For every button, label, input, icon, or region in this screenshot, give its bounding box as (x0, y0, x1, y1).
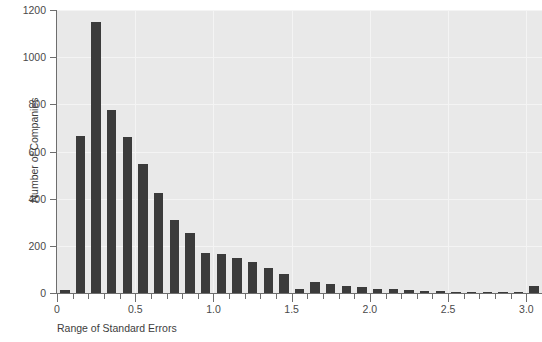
x-axis-minor-tick (323, 294, 324, 299)
x-axis-minor-tick (464, 294, 465, 299)
x-axis-minor-tick (432, 294, 433, 299)
bar (310, 282, 319, 293)
bar-series (57, 10, 542, 293)
bar (232, 258, 241, 293)
bar (170, 220, 179, 293)
plot-area (57, 10, 542, 293)
x-axis-minor-tick (198, 294, 199, 299)
bar (201, 253, 210, 293)
bar (107, 110, 116, 293)
x-axis-minor-tick (386, 294, 387, 299)
x-axis-minor-tick (354, 294, 355, 299)
y-axis-tick-label: 1200 (0, 4, 46, 16)
x-axis-minor-tick (417, 294, 418, 299)
bar (342, 286, 351, 293)
x-axis-minor-tick (167, 294, 168, 299)
y-axis-tick (50, 57, 57, 58)
x-axis-minor-tick (229, 294, 230, 299)
bar (279, 274, 288, 293)
x-axis-major-tick (292, 294, 293, 302)
bar (217, 254, 226, 293)
x-axis-major-tick (213, 294, 214, 302)
x-axis-minor-tick (307, 294, 308, 299)
x-axis-tick-label: 2.0 (363, 303, 378, 315)
x-axis-major-tick (135, 294, 136, 302)
x-axis-tick-label: 1.0 (206, 303, 221, 315)
y-axis-tick (50, 293, 57, 294)
y-axis-tick-label: 0 (0, 287, 46, 299)
x-axis-major-tick (526, 294, 527, 302)
x-axis-minor-tick (495, 294, 496, 299)
y-axis-title: Number of Companies (28, 80, 40, 220)
x-axis-minor-tick (88, 294, 89, 299)
x-axis-minor-tick (245, 294, 246, 299)
x-axis-tick-label: 0.5 (128, 303, 143, 315)
bar (154, 193, 163, 293)
bar (529, 286, 538, 293)
bar (264, 268, 273, 293)
top-cut-off-caption (10, 0, 310, 3)
x-axis-minor-tick (511, 294, 512, 299)
x-axis-tick-label: 3.0 (519, 303, 534, 315)
x-axis-minor-tick (260, 294, 261, 299)
y-axis-tick (50, 10, 57, 11)
x-axis-title: Range of Standard Errors (57, 322, 177, 334)
x-axis-minor-tick (182, 294, 183, 299)
y-axis-tick (50, 199, 57, 200)
histogram-figure: 020040060080010001200 00.51.01.52.02.53.… (0, 0, 542, 342)
y-axis-tick (50, 104, 57, 105)
x-axis-minor-tick (151, 294, 152, 299)
x-axis-minor-tick (276, 294, 277, 299)
x-axis-minor-tick (120, 294, 121, 299)
x-axis-line (56, 293, 542, 294)
x-axis-minor-tick (73, 294, 74, 299)
y-axis-tick (50, 246, 57, 247)
x-axis-tick-label: 1.5 (284, 303, 299, 315)
y-axis-tick (50, 152, 57, 153)
x-axis-minor-tick (104, 294, 105, 299)
bar (248, 262, 257, 293)
x-axis-major-tick (448, 294, 449, 302)
x-axis-major-tick (57, 294, 58, 302)
x-axis-minor-tick (479, 294, 480, 299)
x-axis-major-tick (370, 294, 371, 302)
x-axis-minor-tick (339, 294, 340, 299)
bar (185, 233, 194, 293)
bar (123, 137, 132, 293)
x-axis-minor-tick (401, 294, 402, 299)
bar (326, 284, 335, 293)
x-axis-tick-label: 0 (54, 303, 60, 315)
bar (76, 136, 85, 293)
y-axis-title-holder: Number of Companies (8, 0, 22, 300)
x-axis-tick-label: 2.5 (441, 303, 456, 315)
y-axis-tick-label: 200 (0, 240, 46, 252)
bar (91, 22, 100, 293)
bar (138, 164, 147, 293)
y-axis-tick-label: 1000 (0, 51, 46, 63)
